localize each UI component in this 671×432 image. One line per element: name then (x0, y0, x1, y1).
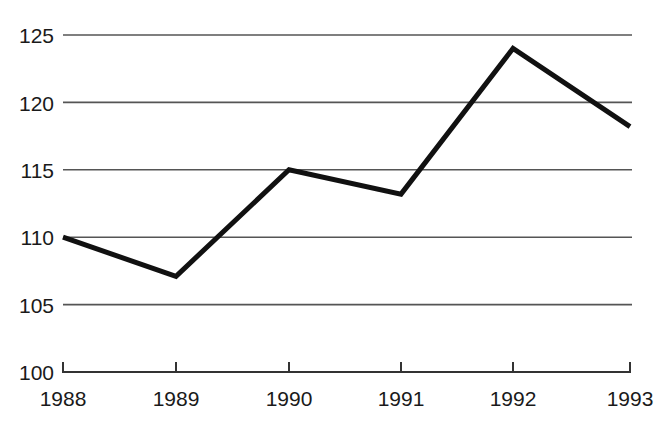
y-tick-label-105: 105 (0, 295, 54, 316)
x-axis-line (63, 362, 630, 372)
data-series-line (63, 49, 630, 277)
x-tick-label-1992: 1992 (473, 388, 553, 409)
y-tick-label-125: 125 (0, 25, 54, 46)
x-tick-label-1990: 1990 (249, 388, 329, 409)
y-tick-label-100: 100 (0, 362, 54, 383)
line-chart: 125 120 115 110 105 100 1988 1989 1990 1… (0, 0, 671, 432)
x-axis-ticks-group (176, 362, 513, 372)
x-tick-label-1989: 1989 (136, 388, 216, 409)
y-tick-label-120: 120 (0, 93, 54, 114)
x-tick-label-1993: 1993 (590, 388, 670, 409)
x-tick-label-1991: 1991 (361, 388, 441, 409)
y-tick-label-110: 110 (0, 227, 54, 248)
chart-plot-area (0, 0, 671, 432)
y-tick-label-115: 115 (0, 160, 54, 181)
x-tick-label-1988: 1988 (23, 388, 103, 409)
